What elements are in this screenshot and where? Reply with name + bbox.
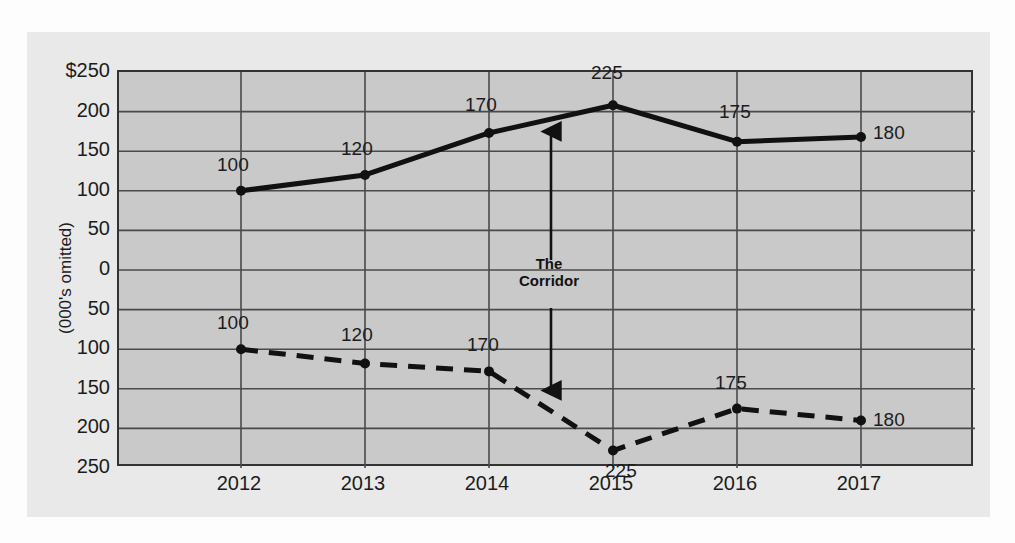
y-axis-tick-label: 50 [14,218,110,238]
data-point-label: 100 [217,313,249,332]
data-point [236,186,246,196]
x-axis-ticks: 201220132014201520162017 [117,472,973,506]
y-axis-tick-label: 200 [14,100,110,120]
data-point [608,446,618,456]
data-point-label: 175 [715,373,747,392]
data-point [236,344,246,354]
data-point-label: 175 [719,102,751,121]
y-axis-tick-label: 100 [14,179,110,199]
corridor-line1: The [536,255,563,272]
y-axis-tick-label: 0 [14,258,110,278]
data-point [856,415,866,425]
data-point [484,366,494,376]
data-point [856,132,866,142]
y-axis-tick-label: 100 [14,337,110,357]
corridor-annotation-label: The Corridor [519,256,579,290]
y-axis-tick-label: 50 [14,298,110,318]
data-point-label: 180 [873,410,905,429]
data-point [732,137,742,147]
data-point [608,100,618,110]
data-point-label: 170 [467,335,499,354]
x-axis-tick-label-2016: 2016 [680,472,790,495]
x-axis-tick-label-2012: 2012 [184,472,294,495]
data-point [360,170,370,180]
chart-figure: (000's omitted) $25020015010050050100150… [0,0,1015,543]
data-point [484,128,494,138]
y-axis-tick-label: 250 [14,456,110,476]
data-point-label: 120 [341,139,373,158]
corridor-line2: Corridor [519,272,579,289]
x-axis-tick-label-2017: 2017 [804,472,914,495]
y-axis-tick-label: 150 [14,139,110,159]
data-point-label: 120 [341,325,373,344]
y-axis-ticks: $25020015010050050100150200250 [10,70,110,466]
x-axis-tick-label-2014: 2014 [432,472,542,495]
y-axis-tick-label: $250 [14,60,110,80]
data-point-label: 100 [217,155,249,174]
x-axis-tick-label-2015: 2015 [556,472,666,495]
y-axis-tick-label: 200 [14,416,110,436]
data-point-label: 180 [873,123,905,142]
x-axis-tick-label-2013: 2013 [308,472,418,495]
data-point [732,404,742,414]
data-point-label: 170 [465,95,497,114]
data-point-label: 225 [591,63,623,82]
data-point [360,358,370,368]
y-axis-tick-label: 150 [14,377,110,397]
